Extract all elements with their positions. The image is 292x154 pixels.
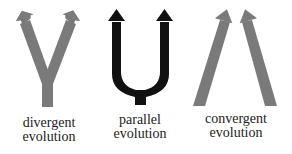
divergent-evolution-label: divergent evolution (14, 116, 84, 143)
parallel-arrows-icon (108, 9, 173, 105)
parallel-label-line2: evolution (105, 127, 175, 141)
divergent-arrows-icon (13, 8, 82, 107)
convergent-evolution-label: convergent evolution (200, 112, 272, 139)
parallel-evolution-label: parallel evolution (105, 113, 175, 140)
convergent-label-line1: convergent (200, 112, 272, 126)
convergent-arrows-icon (193, 7, 277, 106)
convergent-label-line2: evolution (200, 126, 272, 140)
divergent-label-line1: divergent (14, 116, 84, 130)
parallel-label-line1: parallel (105, 113, 175, 127)
divergent-label-line2: evolution (14, 130, 84, 144)
